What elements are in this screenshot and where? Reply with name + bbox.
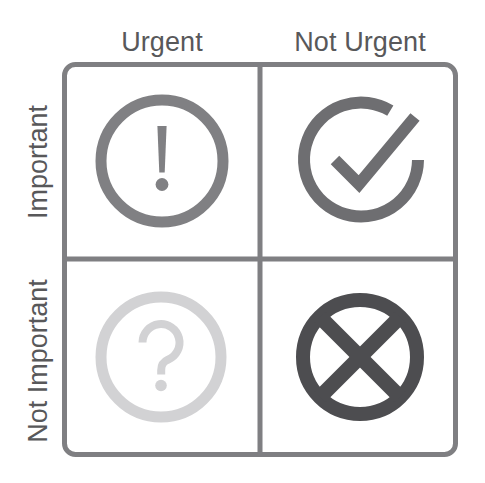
quadrant-not-important-urgent[interactable]: [62, 259, 260, 456]
quadrant-important-not-urgent[interactable]: [260, 62, 458, 259]
column-header-urgent: Urgent: [62, 24, 262, 60]
row-header-important: Important: [21, 62, 55, 262]
eisenhower-matrix: Urgent Not Urgent Important Not Importan…: [0, 0, 485, 483]
check-circle-open-icon: [291, 90, 431, 230]
matrix-grid: [62, 62, 458, 457]
quadrant-important-urgent[interactable]: [62, 62, 260, 259]
x-circle-icon: [294, 291, 426, 423]
exclamation-circle-icon: [95, 94, 229, 228]
row-header-not-important: Not Important: [21, 261, 55, 461]
quadrant-not-important-not-urgent[interactable]: [260, 259, 458, 456]
question-circle-icon: [94, 290, 228, 424]
column-header-not-urgent: Not Urgent: [262, 24, 458, 60]
